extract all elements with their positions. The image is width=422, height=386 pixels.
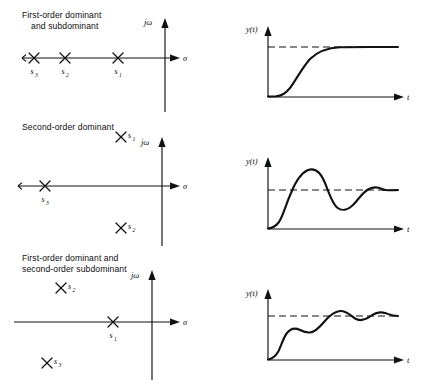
row3-imag-axis xyxy=(148,270,155,380)
row1-pole-s3-label-sub: 3 xyxy=(34,72,38,78)
row3-step-response: y(t) t xyxy=(220,272,420,382)
row3-y-axis-label: y(t) xyxy=(245,289,258,298)
row1-pole-s2-label-sub: 2 xyxy=(66,72,69,78)
row1-pole-s1-label-sub: 1 xyxy=(119,72,122,78)
row2-pole-s1 xyxy=(116,132,126,142)
row3-pole-s3 xyxy=(42,358,52,368)
row3-pole-s2-label: s 2 xyxy=(68,282,76,293)
row3-pole-s3-label: s 3 xyxy=(54,357,62,368)
row1-y-axis-label: y(t) xyxy=(245,25,258,34)
row2-pole-s1-label-sub: 1 xyxy=(133,136,136,142)
row3-y-axis xyxy=(264,289,271,360)
row1-pole-s3-label: s 3 xyxy=(31,67,39,78)
row1-real-axis xyxy=(22,54,180,61)
row2-pole-s2-label-text: s xyxy=(128,222,131,231)
row3-pole-s3-label-sub: 3 xyxy=(58,362,62,368)
row3-real-axis xyxy=(14,318,180,325)
row1-y-axis xyxy=(264,26,271,97)
row1-response-curve xyxy=(268,47,398,97)
row2-y-axis-label: y(t) xyxy=(245,157,258,166)
row2-pole-s2-label: s 2 xyxy=(128,222,136,233)
row2-imag-axis xyxy=(158,137,165,246)
row2-pole-plot: σ jω s 1 s 2 xyxy=(0,128,215,256)
row1-step-response: y(t) t xyxy=(220,0,420,120)
row2-pole-s2 xyxy=(116,223,126,233)
row1-jomega-label: jω xyxy=(143,18,152,27)
row1-imag-axis xyxy=(161,18,168,112)
row1-t-axis xyxy=(268,93,404,100)
row2-pole-s1-label-text: s xyxy=(128,131,131,140)
row2-sigma-label: σ xyxy=(183,182,188,191)
row3-jomega-label: jω xyxy=(130,271,139,280)
row2-pole-s2-label-sub: 2 xyxy=(133,227,136,233)
row1-pole-plot: σ jω s 3 s 2 xyxy=(0,0,215,120)
row3-sigma-label: σ xyxy=(183,318,188,327)
row1-t-axis-label: t xyxy=(407,93,410,102)
figure-root: First-order dominantand subdominant σ jω xyxy=(0,0,422,386)
row3-t-axis-label: t xyxy=(407,356,410,365)
row2-step-response: y(t) t xyxy=(220,140,420,250)
row3-pole-s2-label-text: s xyxy=(68,282,71,291)
row3-pole-plot: σ jω s 2 s 1 xyxy=(0,262,215,386)
row2-pole-s3-label-sub: 3 xyxy=(45,200,49,206)
row3-pole-s1-label-sub: 1 xyxy=(114,336,117,342)
row1-pole-s2-label: s 2 xyxy=(62,67,70,78)
row1-pole-s1-label-text: s xyxy=(115,67,118,76)
row3-pole-s2-label-sub: 2 xyxy=(73,287,76,293)
row2-pole-s1-label: s 1 xyxy=(128,131,136,142)
row2-response-curve xyxy=(268,169,398,228)
row3-pole-s2 xyxy=(56,283,66,293)
row3-pole-s1-label-text: s xyxy=(110,331,113,340)
row2-pole-s3-label: s 3 xyxy=(42,195,50,206)
row1-pole-s2-label-text: s xyxy=(62,67,65,76)
row3-pole-s3-label-text: s xyxy=(54,357,57,366)
row2-t-axis xyxy=(268,225,404,232)
row2-pole-s3-label-text: s xyxy=(42,195,45,204)
row1-pole-s3-label-text: s xyxy=(31,67,34,76)
row2-jomega-label: jω xyxy=(140,138,149,147)
row2-y-axis xyxy=(264,157,271,229)
row1-pole-s1-label: s 1 xyxy=(115,67,123,78)
row3-t-axis xyxy=(268,356,404,363)
row3-response-curve xyxy=(268,311,398,360)
row3-pole-s1-label: s 1 xyxy=(110,331,118,342)
row2-t-axis-label: t xyxy=(407,225,410,234)
row1-sigma-label: σ xyxy=(183,54,188,63)
